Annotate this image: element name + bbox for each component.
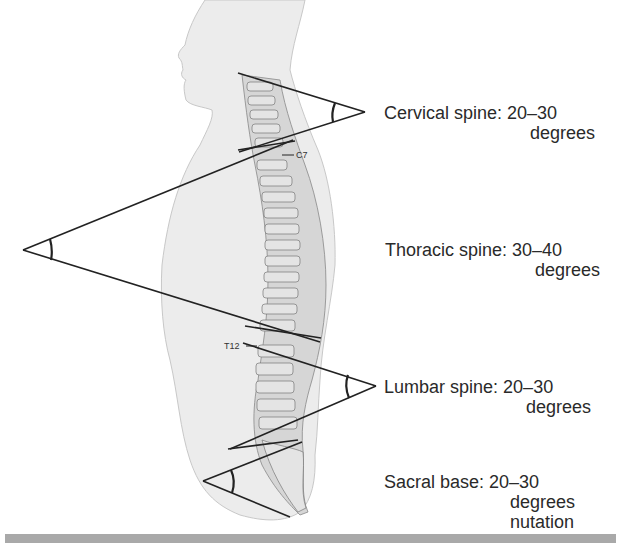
lumbar-unit: degrees xyxy=(384,397,591,417)
sacral-base-label: Sacral base: 20–30 degrees nutation xyxy=(384,472,575,532)
thoracic-value: 30–40 xyxy=(512,240,562,260)
cervical-value: 20–30 xyxy=(507,103,557,123)
sacral-label: Sacral base: xyxy=(384,472,484,492)
thoracic-spine-label: Thoracic spine: 30–40 degrees xyxy=(385,240,600,280)
thoracic-label: Thoracic spine: xyxy=(385,240,507,260)
bottom-divider-bar xyxy=(5,534,616,543)
sacral-extra: nutation xyxy=(384,512,575,532)
c7-marker-label: C7 xyxy=(296,150,308,160)
lumbar-spine-label: Lumbar spine: 20–30 degrees xyxy=(384,377,591,417)
cervical-spine-label: Cervical spine: 20–30 degrees xyxy=(384,103,595,143)
lumbar-value: 20–30 xyxy=(503,377,553,397)
sacral-value: 20–30 xyxy=(489,472,539,492)
sacral-unit: degrees xyxy=(384,492,575,512)
cervical-unit: degrees xyxy=(384,123,595,143)
cervical-label: Cervical spine: xyxy=(384,103,502,123)
thoracic-unit: degrees xyxy=(385,260,600,280)
lumbar-label: Lumbar spine: xyxy=(384,377,498,397)
t12-marker-label: T12 xyxy=(224,341,240,351)
